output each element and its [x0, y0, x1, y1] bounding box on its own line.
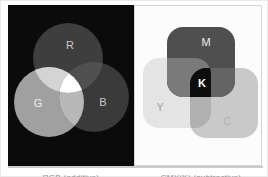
label-m: M [201, 36, 210, 48]
label-r: R [66, 39, 74, 51]
additive-rgb-panel: R G B [8, 5, 134, 166]
label-g: G [34, 97, 43, 109]
caption-left-clipped: RGB (additive) [8, 174, 134, 177]
label-b: B [99, 96, 106, 108]
subtractive-cmyk-panel: M K Y C [134, 5, 263, 166]
caption-right-clipped: CMY(K) (subtractive) [140, 174, 262, 177]
label-k: K [198, 77, 206, 89]
divider-rule [8, 166, 263, 168]
label-y: Y [157, 102, 164, 113]
label-c: C [223, 116, 230, 127]
figure-color-mixing: R G B M K Y C RGB (additive) CM [0, 0, 268, 177]
